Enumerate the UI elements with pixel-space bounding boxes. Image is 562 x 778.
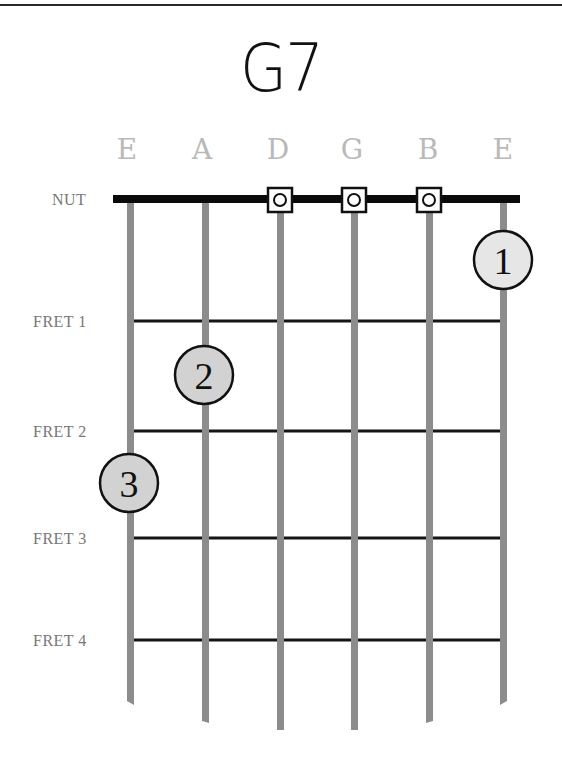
finger-2-marker: 2 [175,346,233,404]
string-g [351,203,358,730]
finger-1-number: 1 [494,240,513,282]
string-b [426,203,433,723]
strings [127,203,507,730]
finger-1-marker: 1 [474,231,532,289]
fretboard-diagram: 1 2 3 [0,0,562,778]
open-string-marker-g [342,188,366,212]
open-string-marker-d [268,188,292,212]
nut-bar [113,195,520,203]
string-a [202,203,209,723]
finger-3-number: 3 [120,463,139,505]
open-string-marker-b [417,188,441,212]
string-d [277,203,284,730]
finger-3-marker: 3 [100,454,158,512]
finger-2-number: 2 [195,355,214,397]
